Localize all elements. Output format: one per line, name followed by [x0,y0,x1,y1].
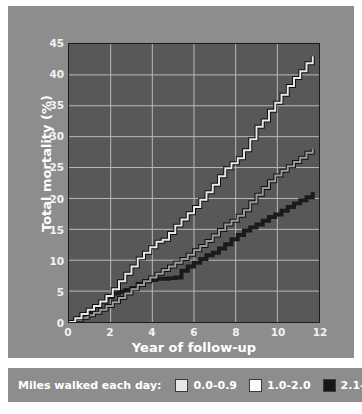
legend-item-1: 1.0-2.0 [249,379,311,392]
chart-panel: Total mortality (%) 45 40 35 30 25 20 15… [8,6,354,358]
y-tick-15: 15 [42,225,64,235]
legend-swatch-icon-0 [175,379,188,392]
y-tick-20: 20 [42,194,64,204]
y-tick-5: 5 [42,287,64,297]
y-tick-35: 35 [42,100,64,110]
chart-screenshot: Total mortality (%) 45 40 35 30 25 20 15… [0,0,362,414]
legend-panel: Miles walked each day: 0.0-0.9 1.0-2.0 2… [8,368,362,402]
legend-item-2: 2.1-8.0 [323,379,362,392]
x-tick-4: 4 [140,326,164,338]
x-axis-title: Year of follow-up [68,340,320,355]
curve-outline-0.0-0.9 [69,56,313,322]
legend-title: Miles walked each day: [18,379,161,392]
data-curves [69,56,313,322]
legend-label-1: 1.0-2.0 [267,379,311,392]
gridlines [69,44,319,322]
x-tick-0: 0 [56,326,80,338]
y-tick-40: 40 [42,69,64,79]
plot-area [68,43,320,323]
y-tick-10: 10 [42,256,64,266]
x-tick-12: 12 [308,326,332,338]
curve-0.0-0.9 [69,56,313,322]
legend-label-2: 2.1-8.0 [341,379,362,392]
y-tick-45: 45 [42,38,64,48]
legend-item-0: 0.0-0.9 [175,379,237,392]
x-tick-8: 8 [224,326,248,338]
y-axis-tick-labels: 45 40 35 30 25 20 15 10 5 0 [34,43,64,323]
legend-label-0: 0.0-0.9 [193,379,237,392]
y-tick-30: 30 [42,131,64,141]
y-tick-25: 25 [42,162,64,172]
x-tick-6: 6 [182,326,206,338]
legend-swatch-icon-2 [323,379,336,392]
legend-swatch-icon-1 [249,379,262,392]
x-tick-10: 10 [266,326,290,338]
plot-svg [69,44,319,322]
x-tick-2: 2 [98,326,122,338]
